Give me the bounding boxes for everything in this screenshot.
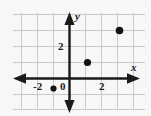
data-point [84, 59, 91, 66]
y-axis-label: y [75, 11, 80, 22]
data-point [50, 85, 56, 91]
x-tick-label-neg2: -2 [33, 81, 42, 92]
x-tick-label-pos2: 2 [99, 81, 105, 92]
data-point [116, 27, 124, 35]
y-tick-label-2: 2 [58, 41, 64, 52]
coordinate-plane-figure: -2 0 2 2 y x [0, 0, 151, 116]
origin-label-zero: 0 [60, 81, 66, 92]
x-axis-label: x [131, 62, 137, 73]
